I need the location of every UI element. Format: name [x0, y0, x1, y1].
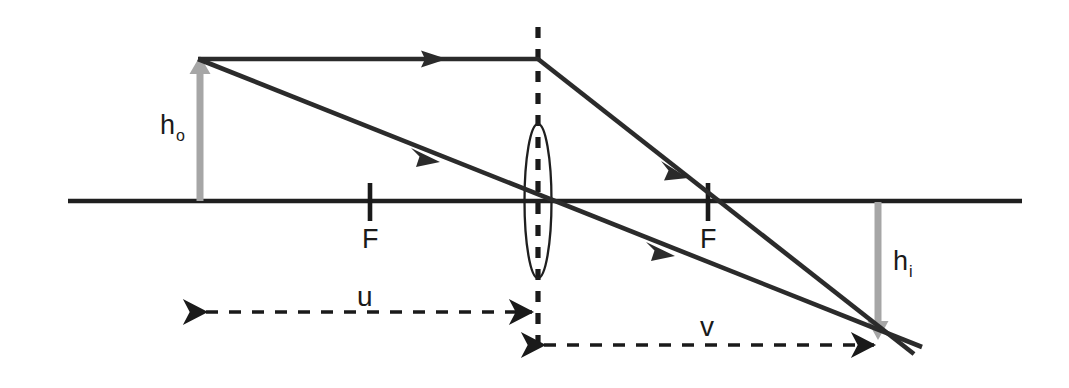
- object-arrow: [190, 56, 211, 201]
- ray-diagram-canvas: ho hi F F u v: [0, 0, 1069, 388]
- ray-diagram-svg: [0, 0, 1069, 388]
- image-distance-label: v: [700, 313, 714, 341]
- object-distance-label: u: [357, 283, 373, 311]
- image-height-label: hi: [893, 248, 912, 275]
- ray-refracted: [538, 59, 914, 354]
- focal-point-left-label: F: [362, 226, 379, 253]
- object-height-label: ho: [160, 112, 184, 139]
- focal-point-right-label: F: [700, 226, 717, 253]
